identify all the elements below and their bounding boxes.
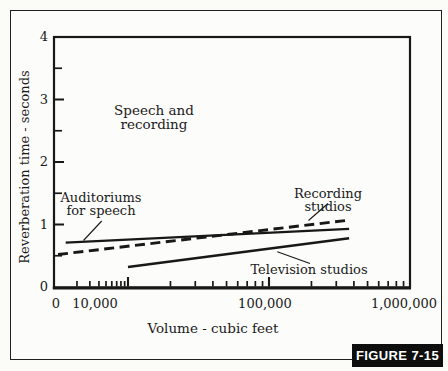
annotation-television-studios: Television studios xyxy=(249,263,369,276)
annotation-speech-and-recording: Speech and recording xyxy=(94,104,214,131)
x-tick-label-1000000: 1,000,000 xyxy=(359,296,448,311)
y-tick-label-0: 0 xyxy=(28,280,48,294)
x-tick-label-100000: 100,000 xyxy=(225,296,305,311)
chart-canvas xyxy=(0,0,448,371)
x-tick-label-10000: 10,000 xyxy=(60,296,130,311)
series-line-auditoriums-for-speech xyxy=(66,229,349,243)
callout-line xyxy=(84,221,102,241)
y-tick-label-4: 4 xyxy=(28,30,48,44)
x-axis-title: Volume - cubic feet xyxy=(143,320,283,336)
series-line-recording-studios xyxy=(58,220,349,254)
figure-number-badge: FIGURE 7-15 xyxy=(352,344,443,367)
annotation-auditoriums-for-speech: Auditoriums for speech xyxy=(45,192,157,217)
figure-page: { "figure": { "badge": "FIGURE 7-15" }, … xyxy=(0,0,448,371)
y-axis-title: Reverberation time - seconds xyxy=(17,57,33,277)
annotation-recording-studios: Recording studios xyxy=(272,187,384,214)
